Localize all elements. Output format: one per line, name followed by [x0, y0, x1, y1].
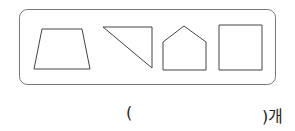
- answer-open-paren: (: [126, 103, 132, 122]
- shapes-figure: [0, 0, 295, 131]
- shapes-frame: [20, 10, 276, 85]
- answer-close-unit: )개: [262, 103, 283, 127]
- pentagon-shape: [163, 26, 206, 70]
- trapezoid-shape: [34, 29, 90, 69]
- triangle-shape: [103, 27, 152, 68]
- square-shape: [219, 25, 262, 70]
